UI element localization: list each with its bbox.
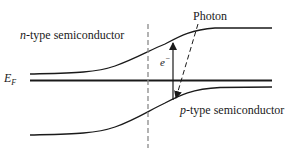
n-type-label: n-type semiconductor bbox=[20, 28, 124, 42]
electron-label: e− bbox=[160, 54, 170, 68]
photon-label: Photon bbox=[193, 9, 227, 23]
band-diagram-svg: n-type semiconductor p-type semiconducto… bbox=[0, 0, 295, 152]
photon-arrow bbox=[176, 24, 198, 98]
band-diagram: n-type semiconductor p-type semiconducto… bbox=[0, 0, 295, 152]
fermi-level-label: EF bbox=[3, 71, 16, 87]
p-type-label: p-type semiconductor bbox=[179, 103, 284, 117]
